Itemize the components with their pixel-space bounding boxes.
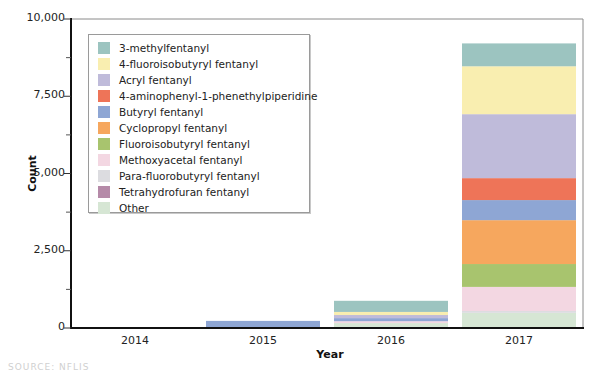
bar-segment <box>462 313 576 328</box>
y-tick-label: 7,500 <box>5 88 65 101</box>
legend-swatch <box>98 42 110 54</box>
bar-segment <box>462 287 576 311</box>
bar-2016 <box>334 301 448 328</box>
legend-label: Cyclopropyl fentanyl <box>119 122 227 134</box>
legend-label: Methoxyacetal fentanyl <box>119 154 242 166</box>
x-tick-label: 2015 <box>233 334 293 347</box>
legend-item: Cyclopropyl fentanyl <box>98 120 309 136</box>
legend-swatch <box>98 186 110 198</box>
legend-swatch <box>98 106 110 118</box>
legend-item: Acryl fentanyl <box>98 72 309 88</box>
legend-item: Para-fluorobutyryl fentanyl <box>98 168 309 184</box>
bar-segment <box>462 114 576 178</box>
bar-segment <box>206 321 320 328</box>
x-axis-title: Year <box>305 348 355 361</box>
bar-segment <box>334 315 448 318</box>
legend-item: Fluoroisobutyryl fentanyl <box>98 136 309 152</box>
y-tick-label: 10,000 <box>5 11 65 24</box>
bar-segment <box>462 264 576 287</box>
x-tick-label: 2016 <box>361 334 421 347</box>
legend-label: 3-methylfentanyl <box>119 42 209 54</box>
legend-item: Other <box>98 200 309 216</box>
x-tick-label: 2014 <box>105 334 165 347</box>
x-tick-label: 2017 <box>489 334 549 347</box>
legend-swatch <box>98 58 110 70</box>
bar-segment <box>334 312 448 315</box>
legend-label: Tetrahydrofuran fentanyl <box>119 186 249 198</box>
bar-segment <box>462 311 576 313</box>
y-tick-label: 2,500 <box>5 243 65 256</box>
legend-swatch <box>98 122 110 134</box>
bar-segment <box>334 301 448 312</box>
legend-swatch <box>98 74 110 86</box>
legend-item: Methoxyacetal fentanyl <box>98 152 309 168</box>
legend-label: 4-aminophenyl-1-phenethylpiperidine <box>119 90 317 102</box>
legend-swatch <box>98 154 110 166</box>
legend-label: Para-fluorobutyryl fentanyl <box>119 170 260 182</box>
bar-2017 <box>462 43 576 328</box>
legend-item: 4-fluoroisobutyryl fentanyl <box>98 56 309 72</box>
bar-segment <box>462 43 576 66</box>
legend-label: Fluoroisobutyryl fentanyl <box>119 138 250 150</box>
legend-swatch <box>98 90 110 102</box>
legend-label: Acryl fentanyl <box>119 74 192 86</box>
legend-label: Other <box>119 202 149 214</box>
legend-item: 4-aminophenyl-1-phenethylpiperidine <box>98 88 309 104</box>
legend-label: Butyryl fentanyl <box>119 106 203 118</box>
bar-segment <box>462 220 576 264</box>
legend-swatch <box>98 170 110 182</box>
legend-swatch <box>98 202 110 214</box>
source-note: SOURCE: NFLIS <box>8 362 89 372</box>
legend: 3-methylfentanyl4-fluoroisobutyryl fenta… <box>88 34 310 213</box>
bar-segment <box>462 66 576 114</box>
legend-item: Butyryl fentanyl <box>98 104 309 120</box>
legend-item: 3-methylfentanyl <box>98 40 309 56</box>
y-tick-label: 0 <box>5 320 65 333</box>
bar-2015 <box>206 321 320 328</box>
stacked-bar-chart: 02,5005,0007,50010,000 2014201520162017 … <box>0 0 597 372</box>
legend-item: Tetrahydrofuran fentanyl <box>98 184 309 200</box>
bar-segment <box>334 321 448 323</box>
y-axis-title: Count <box>26 154 39 194</box>
bar-segment <box>462 178 576 200</box>
legend-label: 4-fluoroisobutyryl fentanyl <box>119 58 258 70</box>
bar-segment <box>462 200 576 220</box>
bar-segment <box>334 318 448 321</box>
legend-swatch <box>98 138 110 150</box>
